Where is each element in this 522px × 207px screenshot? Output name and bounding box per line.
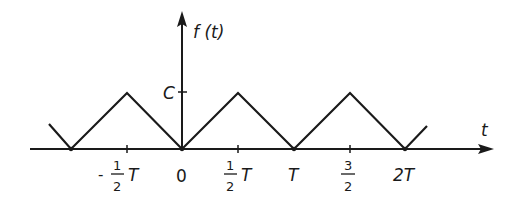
- x-axis-label: t: [481, 120, 489, 140]
- tick-label-2T: 2T: [393, 165, 416, 185]
- amplitude-label: C: [163, 83, 175, 103]
- tick-label-half-T: 1 2 T: [224, 158, 253, 194]
- svg-text:2: 2: [113, 179, 121, 194]
- tick-label-T: T: [288, 165, 300, 185]
- tick-marks: [127, 92, 350, 153]
- svg-text:2: 2: [226, 179, 234, 194]
- waveform-line: [49, 93, 427, 149]
- svg-text:1: 1: [226, 158, 234, 173]
- triangular-wave-diagram: f (t) t C - 1 2 T 0 1 2 T T 3 2 2T: [0, 0, 522, 207]
- svg-text:2: 2: [344, 179, 352, 194]
- svg-text:T: T: [241, 165, 253, 185]
- tick-label-three-halves: 3 2: [341, 158, 355, 194]
- x-axis: [30, 144, 494, 154]
- tick-label-neg-half-T: - 1 2 T: [98, 158, 140, 194]
- svg-text:-: -: [98, 166, 103, 184]
- svg-text:T: T: [128, 165, 140, 185]
- tick-label-zero: 0: [176, 166, 187, 186]
- y-axis: [177, 11, 187, 149]
- svg-text:1: 1: [113, 158, 121, 173]
- y-axis-label: f (t): [193, 22, 224, 42]
- svg-text:3: 3: [344, 158, 352, 173]
